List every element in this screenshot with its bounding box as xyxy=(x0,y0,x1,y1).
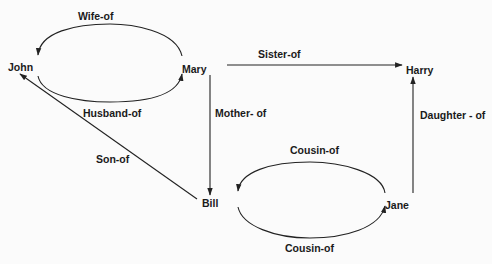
node-john: John xyxy=(8,61,33,73)
label-wife-of: Wife-of xyxy=(78,10,114,22)
edge-wife-of xyxy=(38,24,182,56)
label-mother-of: Mother- of xyxy=(215,107,267,119)
label-son-of: Son-of xyxy=(96,153,130,165)
edge-son-of xyxy=(20,74,197,199)
label-daughter-of: Daughter - of xyxy=(420,109,486,121)
edge-cousin-of-top xyxy=(238,162,385,193)
edge-husband-of xyxy=(38,74,182,102)
node-mary: Mary xyxy=(182,63,207,75)
node-harry: Harry xyxy=(406,64,434,76)
node-jane: Jane xyxy=(385,199,409,211)
label-husband-of: Husband-of xyxy=(83,107,142,119)
label-sister-of: Sister-of xyxy=(258,48,301,60)
label-cousin-of-top: Cousin-of xyxy=(290,144,339,156)
label-cousin-of-bottom: Cousin-of xyxy=(285,242,334,254)
node-bill: Bill xyxy=(202,197,218,209)
edge-cousin-of-bottom xyxy=(238,206,385,238)
semantic-network-diagram: Wife-of Husband-of Sister-of Mother- of … xyxy=(0,0,492,264)
